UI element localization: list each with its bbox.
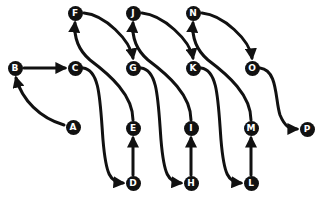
node-m: M — [244, 121, 259, 136]
node-i: I — [184, 121, 199, 136]
path-diagram: A B C D E F G H I J K L M N O P — [0, 0, 325, 200]
node-e: E — [126, 121, 141, 136]
node-a: A — [66, 120, 81, 135]
node-f: F — [68, 6, 83, 21]
edge-f-g — [84, 13, 133, 58]
node-p: P — [300, 122, 315, 137]
node-b: B — [8, 61, 23, 76]
node-l: L — [244, 176, 259, 191]
node-o: O — [245, 61, 260, 76]
node-k: K — [186, 61, 201, 76]
node-h: H — [184, 176, 199, 191]
edges-layer — [0, 0, 325, 200]
node-j: J — [126, 6, 141, 21]
edge-j-k — [142, 13, 193, 58]
node-g: G — [126, 61, 141, 76]
node-d: D — [126, 176, 141, 191]
edge-o-p — [260, 68, 297, 129]
edge-n-o — [202, 13, 252, 58]
node-c: C — [68, 61, 83, 76]
edge-a-b — [16, 78, 64, 125]
node-n: N — [186, 6, 201, 21]
